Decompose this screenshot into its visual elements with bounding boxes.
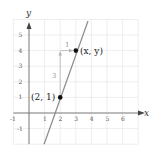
run-arrow-icon	[69, 49, 74, 53]
slope-triangle	[58, 49, 73, 98]
rise-arrow-icon	[58, 51, 62, 56]
y-axis	[27, 22, 32, 144]
y-tick: -1	[17, 125, 23, 132]
run-label: 1	[65, 41, 69, 49]
x-tick: 2	[59, 115, 63, 122]
x-axis	[13, 111, 145, 116]
grid	[13, 19, 138, 144]
y-tick: 4	[19, 47, 23, 54]
y-tick: 5	[19, 31, 23, 38]
y-tick: 3	[19, 62, 23, 69]
x-tick: 6	[121, 115, 125, 122]
x-tick: 1	[43, 115, 47, 122]
y-axis-label: y	[25, 8, 32, 18]
point-2-1	[58, 95, 63, 100]
x-axis-label: x	[144, 108, 149, 118]
x-tick: -1	[10, 115, 16, 122]
x-tick: 4	[90, 115, 94, 122]
x-tick: 5	[105, 115, 109, 122]
y-tick: 2	[19, 78, 23, 85]
point-x-y	[74, 48, 79, 53]
y-tick-labels: 5 4 3 2 1 -1	[17, 31, 23, 132]
line-graph	[44, 21, 88, 144]
rise-label: 3	[52, 72, 56, 80]
y-axis-arrow-icon	[27, 22, 32, 29]
y-tick: 1	[19, 93, 23, 100]
x-tick: 3	[74, 115, 78, 122]
x-tick-labels: -1 1 2 3 4 5 6	[10, 115, 125, 122]
point-2-1-label: (2, 1)	[31, 92, 55, 102]
point-x-y-label: (x, y)	[80, 46, 103, 56]
coordinate-plane: x y -1 1 2 3 4 5 6 5 4 3 2 1 -1 3 1 (2, …	[0, 0, 152, 158]
